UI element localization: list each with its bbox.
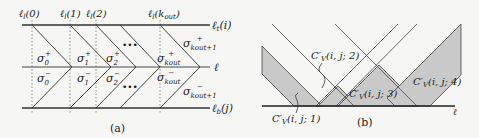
svg-text:ℓl(1): ℓl(1) [60,8,81,21]
region-4 [387,24,461,106]
pointer-arrow-2 [319,63,325,88]
svg-text:σ2−: σ2− [106,70,120,87]
svg-text:σ0−: σ0− [37,70,51,87]
svg-text:ℓt(i): ℓt(i) [212,19,232,33]
svg-text:σ1+: σ1+ [77,50,91,67]
svg-text:ℓb(j): ℓb(j) [212,102,233,116]
svg-text:ℓ: ℓ [214,61,219,74]
ellipsis-bottom: ••• [122,82,138,92]
label-region-1: C′V(i, j; 1) [272,113,320,126]
svg-text:σkout−: σkout− [157,69,180,86]
svg-text:σ2+: σ2+ [106,50,120,67]
ellipsis-top: ••• [122,40,138,50]
svg-text:σkout+: σkout+ [157,50,180,67]
caption-b: (b) [357,116,373,129]
baseline-label: ℓ [453,107,457,117]
svg-text:ℓl(kout): ℓl(kout) [148,8,180,21]
panel-a [22,20,210,114]
svg-text:ℓl(2): ℓl(2) [86,8,107,21]
caption-a: (a) [110,122,125,135]
label-region-2: C′V(i, j; 2) [311,50,359,63]
svg-text:σkout+1−: σkout+1− [183,83,217,100]
svg-text:ℓl(0): ℓl(0) [19,8,40,21]
svg-text:σ1−: σ1− [77,70,91,87]
svg-text:σ0+: σ0+ [37,50,51,67]
panel-a-labels: ℓl(0) ℓl(1) ℓl(2) ℓl(kout) ℓt(i) ℓ ℓb(j)… [19,8,233,135]
panel-b: C′V(i, j; 2) C′V(i, j; 3) C′V(i, j; 4) C… [262,24,461,129]
svg-text:σkout+1+: σkout+1+ [183,35,217,52]
figure: ℓl(0) ℓl(1) ℓl(2) ℓl(kout) ℓt(i) ℓ ℓb(j)… [0,0,479,138]
